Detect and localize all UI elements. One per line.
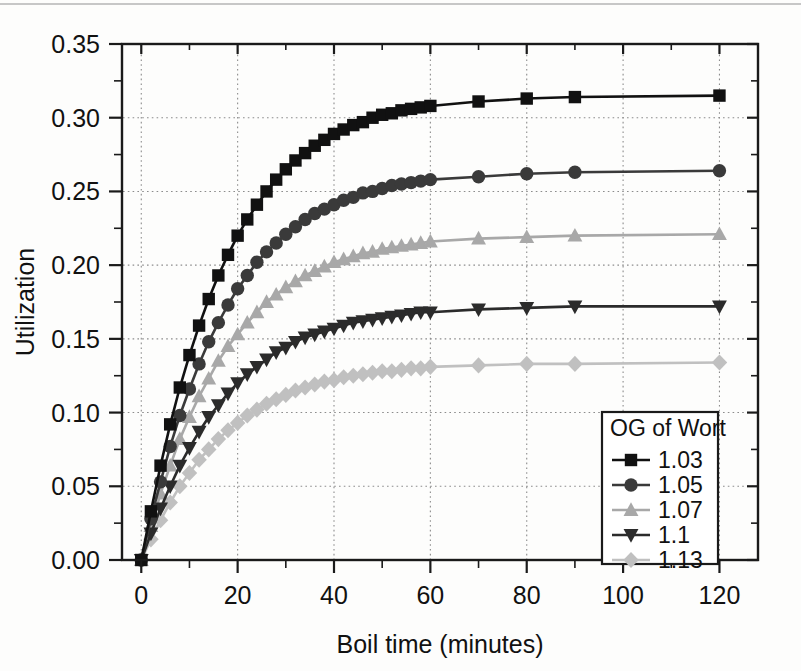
legend-entry-label: 1.05 [658,472,703,498]
y-tick-label: 0.35 [51,30,100,58]
data-point-circle [520,167,533,180]
data-point-square [241,213,253,225]
data-point-circle [624,478,637,491]
y-tick-label: 0.20 [51,251,100,279]
data-point-square [212,269,224,281]
y-tick-label: 0.25 [51,177,100,205]
x-tick-label: 0 [134,581,148,609]
data-point-circle [472,170,485,183]
legend-entry-label: 1.1 [658,522,690,548]
data-point-square [424,100,436,112]
data-point-triangle-down [182,442,197,456]
data-point-square [183,349,195,361]
data-point-diamond [519,356,535,372]
data-point-diamond [712,354,728,370]
data-point-circle [212,316,225,329]
x-tick-label: 80 [513,581,541,609]
legend-title: OG of Wort [610,415,726,441]
data-point-diamond [423,359,439,375]
y-axis-title: Utilization [11,248,39,356]
data-point-square [231,229,243,241]
data-point-diamond [471,357,487,373]
x-axis-title: Boil time (minutes) [337,630,544,658]
y-tick-label: 0.00 [51,546,100,574]
data-point-square [145,505,157,517]
x-tick-label: 100 [602,581,644,609]
data-point-circle [250,255,263,268]
data-point-square [164,418,176,430]
y-tick-label: 0.30 [51,104,100,132]
data-point-circle [221,298,234,311]
x-tick-label: 40 [320,581,348,609]
data-point-circle [424,173,437,186]
x-tick-label: 20 [224,581,252,609]
data-point-circle [241,269,254,282]
legend-entry-label: 1.07 [658,497,703,523]
data-point-square [222,249,234,261]
legend-entry-label: 1.03 [658,447,703,473]
data-point-square [521,92,533,104]
data-point-circle [713,164,726,177]
data-point-circle [568,166,581,179]
chart-legend: OG of Wort1.031.051.071.11.13 [602,412,726,573]
data-point-square [251,198,263,210]
legend-entry-label: 1.13 [658,547,703,573]
data-point-square [713,89,725,101]
y-tick-label: 0.10 [51,399,100,427]
data-point-diamond [567,356,583,372]
x-tick-label: 60 [416,581,444,609]
data-point-square [174,381,186,393]
data-point-square [569,91,581,103]
y-tick-label: 0.05 [51,472,100,500]
data-point-circle [202,335,215,348]
data-point-triangle-down [192,426,207,440]
data-point-square [154,459,166,471]
data-point-square [193,319,205,331]
x-tick-label: 120 [699,581,741,609]
data-point-square [260,185,272,197]
data-point-triangle-up [201,371,216,385]
data-point-square [203,293,215,305]
chart-figure: 0204060801001200.000.050.100.150.200.250… [0,0,801,671]
data-point-square [625,454,637,466]
data-point-square [472,95,484,107]
y-tick-label: 0.15 [51,325,100,353]
data-point-circle [231,282,244,295]
utilization-vs-boil-time-chart: 0204060801001200.000.050.100.150.200.250… [0,0,801,671]
